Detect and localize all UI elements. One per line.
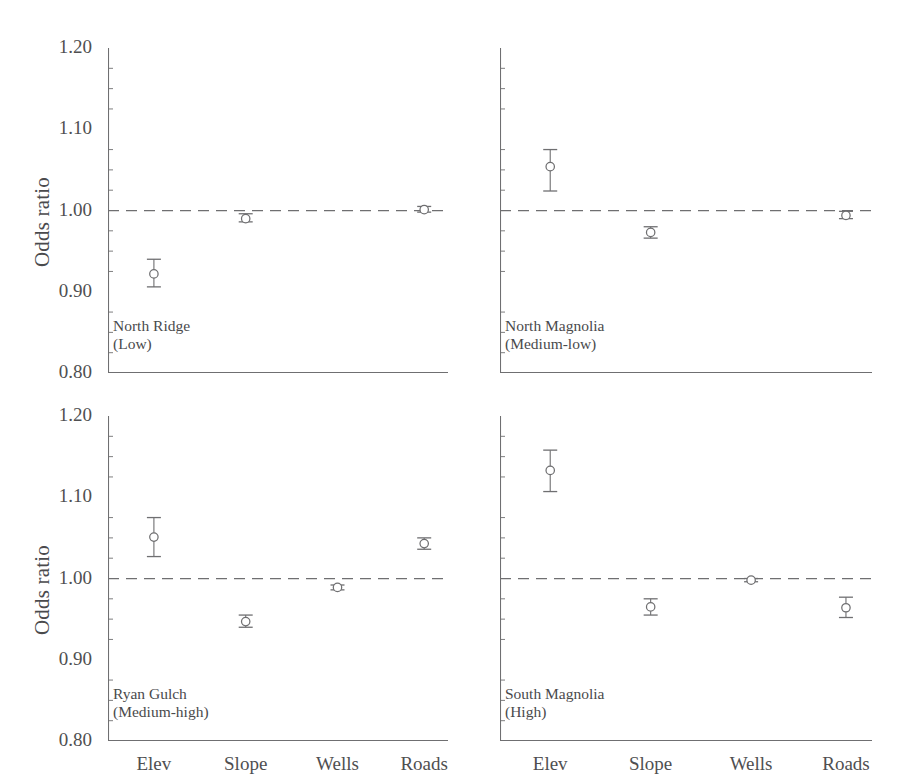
panel-name: Ryan Gulch	[113, 685, 209, 703]
x-tick-label-slope: Slope	[601, 753, 701, 775]
y-tick-label: 0.80	[20, 361, 92, 383]
panel-caption-north-magnolia: North Magnolia(Medium-low)	[505, 317, 604, 353]
x-tick-label-wells: Wells	[701, 753, 801, 775]
panel-level: (Medium-high)	[113, 703, 209, 721]
y-tick-label: 1.20	[20, 404, 92, 426]
panel-caption-ryan-gulch: Ryan Gulch(Medium-high)	[113, 685, 209, 721]
marker-open-circle	[242, 617, 250, 625]
panel-level: (Low)	[113, 335, 190, 353]
panel-north-ridge: North Ridge(Low)	[108, 48, 448, 373]
data-point-south-magnolia-slope	[644, 599, 658, 615]
odds-ratio-figure: North Ridge(Low)1.201.101.000.900.80Odds…	[0, 0, 920, 784]
x-tick-label-slope: Slope	[196, 753, 296, 775]
data-point-north-ridge-roads	[417, 205, 431, 213]
marker-open-circle	[546, 162, 554, 170]
y-axis-title: Odds ratio	[30, 544, 55, 634]
marker-open-circle	[333, 583, 341, 591]
data-point-north-magnolia-elev	[543, 150, 557, 191]
y-tick-label: 1.20	[20, 36, 92, 58]
y-tick-label: 0.90	[20, 648, 92, 670]
marker-open-circle	[646, 603, 654, 611]
panel-name: North Ridge	[113, 317, 190, 335]
data-point-north-ridge-elev	[147, 259, 161, 287]
marker-open-circle	[842, 604, 850, 612]
y-axis-title: Odds ratio	[30, 176, 55, 266]
data-point-ryan-gulch-slope	[239, 615, 253, 627]
panel-level: (Medium-low)	[505, 335, 604, 353]
panel-south-magnolia: South Magnolia(High)	[500, 416, 872, 741]
panel-caption-north-ridge: North Ridge(Low)	[113, 317, 190, 353]
x-tick-label-wells: Wells	[288, 753, 388, 775]
y-tick-label: 0.90	[20, 280, 92, 302]
panel-caption-south-magnolia: South Magnolia(High)	[505, 685, 604, 721]
data-point-north-magnolia-roads	[839, 211, 853, 219]
panel-level: (High)	[505, 703, 604, 721]
panel-name: South Magnolia	[505, 685, 604, 703]
x-tick-label-elev: Elev	[500, 753, 600, 775]
x-tick-label-roads: Roads	[796, 753, 896, 775]
data-point-ryan-gulch-roads	[417, 538, 431, 549]
marker-open-circle	[420, 205, 428, 213]
panel-name: North Magnolia	[505, 317, 604, 335]
data-point-north-magnolia-slope	[644, 227, 658, 238]
data-point-ryan-gulch-elev	[147, 518, 161, 557]
marker-open-circle	[242, 214, 250, 222]
marker-open-circle	[747, 576, 755, 584]
marker-open-circle	[646, 228, 654, 236]
marker-open-circle	[150, 270, 158, 278]
data-point-south-magnolia-elev	[543, 450, 557, 491]
x-tick-label-elev: Elev	[104, 753, 204, 775]
data-point-north-ridge-slope	[239, 214, 253, 223]
data-point-south-magnolia-roads	[839, 597, 853, 617]
panel-north-magnolia: North Magnolia(Medium-low)	[500, 48, 872, 373]
marker-open-circle	[420, 539, 428, 547]
y-tick-label: 1.10	[20, 117, 92, 139]
x-tick-label-roads: Roads	[374, 753, 474, 775]
y-tick-label: 0.80	[20, 729, 92, 751]
panel-ryan-gulch: Ryan Gulch(Medium-high)	[108, 416, 448, 741]
data-point-ryan-gulch-wells	[331, 583, 345, 591]
marker-open-circle	[150, 533, 158, 541]
data-point-south-magnolia-wells	[744, 576, 758, 584]
marker-open-circle	[842, 211, 850, 219]
marker-open-circle	[546, 466, 554, 474]
y-tick-label: 1.10	[20, 485, 92, 507]
